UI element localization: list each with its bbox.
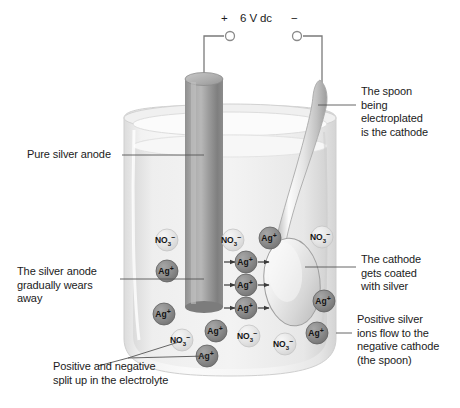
silver-ion: Ag+ [205,320,227,342]
wire-negative [303,36,322,84]
silver-ion: Ag+ [235,297,257,319]
label-split-up-electrolyte: Positive and negative split up in the el… [53,360,168,387]
silver-ion: Ag+ [306,322,328,344]
silver-ion: Ag+ [313,290,335,312]
terminal-positive[interactable] [226,32,235,41]
silver-ion: Ag+ [235,251,257,273]
supply-positive-sign: + [221,12,228,24]
anode-highlight [191,82,196,304]
supply-voltage-label: 6 V dc [240,12,272,24]
beaker-rim-inner [133,112,327,136]
anode-body [185,79,223,307]
label-pure-silver-anode: Pure silver anode [27,148,111,162]
label-spoon-is-cathode: The spoon being electroplated is the cat… [361,85,428,139]
silver-ion: Ag+ [153,303,175,325]
label-anode-wears-away: The silver anode gradually wears away [17,265,97,306]
silver-ion: Ag+ [235,274,257,296]
anode-bottom-face [185,301,223,313]
silver-ion: Ag+ [259,227,281,249]
electroplating-diagram: NO3−Ag+NO3−Ag+NO3−Ag+Ag+Ag+Ag+Ag+NO3−Ag+… [0,0,460,408]
supply-negative-sign: − [291,12,298,24]
anode-top-face [185,73,223,86]
silver-anode[interactable] [185,73,223,314]
liquid-surface [133,135,327,157]
label-cathode-gets-coated: The cathode gets coated with silver [361,253,421,294]
label-ions-flow-to-cathode: Positive silver ions flow to the negativ… [357,313,439,367]
terminal-negative[interactable] [293,32,302,41]
